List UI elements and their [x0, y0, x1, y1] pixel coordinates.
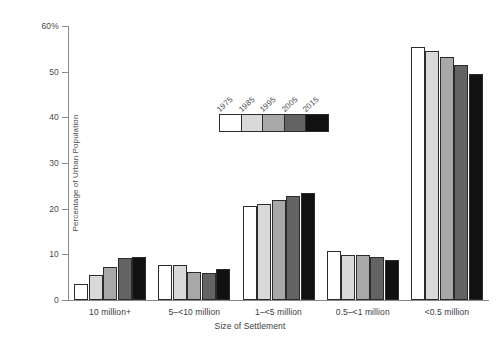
bar-1995-10-million-: [103, 267, 117, 300]
bar-1995-5-10-million: [187, 272, 201, 300]
x-axis-tick-label: 1–<5 million: [255, 307, 302, 317]
bar-group: [327, 26, 399, 300]
x-axis-title: Size of Settlement: [0, 321, 500, 331]
bar-1985-5-10-million: [173, 265, 187, 300]
y-axis-tick-label: 20: [49, 204, 59, 214]
bar-1975-0-5-1-million: [327, 251, 341, 300]
y-axis-tick-label: 0: [54, 295, 59, 305]
bar-1975-1-5-million: [243, 206, 257, 300]
bar-group: [158, 26, 230, 300]
legend-swatch-2015: [306, 115, 328, 131]
bar-group: [243, 26, 315, 300]
legend-label-2005: 2005: [279, 95, 299, 114]
bar-1975-10-million-: [74, 284, 88, 300]
bar-group: [74, 26, 146, 300]
x-axis-tick-label: <0.5 million: [425, 307, 469, 317]
x-axis-tick-label: 10 million+: [89, 307, 131, 317]
legend: 19751985199520052015: [219, 114, 329, 132]
legend-label-1995: 1995: [258, 95, 278, 114]
bar-chart: Percentage of Urban Population 010203040…: [0, 0, 500, 346]
bar-group: [411, 26, 483, 300]
bar-groups: [68, 26, 489, 300]
bar-1975--0-5-million: [411, 47, 425, 300]
bar-2005--0-5-million: [454, 65, 468, 300]
bar-2005-10-million-: [118, 258, 132, 300]
bar-2005-0-5-1-million: [370, 257, 384, 300]
bar-2015-1-5-million: [301, 193, 315, 300]
bar-1995--0-5-million: [440, 57, 454, 300]
bar-1985--0-5-million: [425, 51, 439, 300]
legend-swatch-1995: [263, 115, 285, 131]
legend-swatch-1985: [242, 115, 264, 131]
legend-swatch-2005: [285, 115, 307, 131]
legend-swatch-1975: [220, 115, 242, 131]
y-axis-tick-label: 60%: [41, 21, 59, 31]
bar-2005-5-10-million: [202, 273, 216, 300]
legend-swatches: [219, 114, 329, 132]
y-axis-tick-label: 50: [49, 67, 59, 77]
x-axis-tick-label: 0.5–<1 million: [336, 307, 390, 317]
bar-1985-10-million-: [89, 275, 103, 300]
bar-1995-0-5-1-million: [356, 255, 370, 300]
y-axis-tick-label: 10: [49, 249, 59, 259]
bar-1985-0-5-1-million: [341, 255, 355, 300]
x-axis-tick-label: 5–<10 million: [168, 307, 220, 317]
bar-2015--0-5-million: [469, 74, 483, 300]
y-axis-tick-label: 30: [49, 158, 59, 168]
legend-label-1985: 1985: [236, 95, 256, 114]
legend-labels: 19751985199520052015: [219, 88, 329, 114]
y-axis-tick-mark: [62, 300, 68, 301]
x-axis-line: [68, 300, 489, 301]
bar-2005-1-5-million: [286, 196, 300, 300]
legend-label-2015: 2015: [301, 95, 321, 114]
y-axis-tick-label: 40: [49, 112, 59, 122]
bar-1995-1-5-million: [272, 200, 286, 300]
bar-2015-0-5-1-million: [385, 260, 399, 300]
bar-2015-10-million-: [132, 257, 146, 300]
bar-2015-5-10-million: [216, 269, 230, 300]
bar-1985-1-5-million: [257, 204, 271, 300]
bar-1975-5-10-million: [158, 265, 172, 300]
